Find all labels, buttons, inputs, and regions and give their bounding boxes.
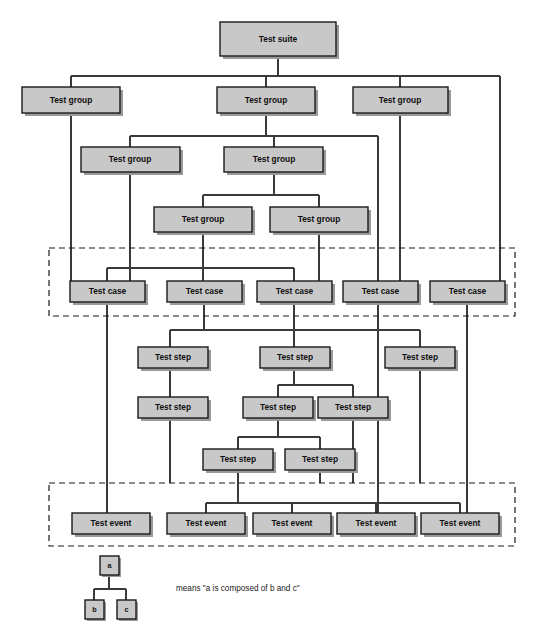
- legend-node-a: a: [100, 556, 121, 577]
- node-test-case-1[interactable]: Test case: [70, 281, 148, 305]
- edge-group5-to-subgroups: [203, 172, 319, 207]
- node-test-step-2[interactable]: Test step: [260, 347, 333, 371]
- node-body: [285, 449, 355, 470]
- legend-node-b: b: [85, 600, 106, 621]
- node-test-step-7[interactable]: Test step: [203, 449, 276, 473]
- node-body: [167, 513, 245, 534]
- node-body: [217, 87, 315, 113]
- node-body: [343, 281, 418, 302]
- node-body: [421, 513, 499, 534]
- node-body: [243, 397, 313, 418]
- node-test-case-4[interactable]: Test case: [343, 281, 421, 305]
- node-body: [138, 397, 208, 418]
- diagram-root: Test suite Test group Test group Test gr…: [0, 0, 536, 635]
- node-test-step-6[interactable]: Test step: [318, 397, 391, 421]
- node-test-group-7[interactable]: Test group: [270, 207, 371, 235]
- node-body: [318, 397, 388, 418]
- node-body: [100, 556, 119, 575]
- node-test-event-4[interactable]: Test event: [337, 513, 418, 537]
- node-body: [353, 87, 448, 113]
- node-body: [430, 281, 505, 302]
- node-body: [224, 147, 323, 172]
- node-test-case-2[interactable]: Test case: [167, 281, 245, 305]
- node-test-case-3[interactable]: Test case: [257, 281, 335, 305]
- node-body: [270, 207, 368, 232]
- node-test-event-1[interactable]: Test event: [72, 513, 153, 537]
- node-test-step-8[interactable]: Test step: [285, 449, 358, 473]
- node-body: [81, 147, 180, 172]
- edge-step5-to-substeps: [238, 418, 320, 449]
- node-test-step-4[interactable]: Test step: [138, 397, 211, 421]
- node-test-case-5[interactable]: Test case: [430, 281, 508, 305]
- edge-legend-a-to-bc: [94, 575, 126, 600]
- node-body: [220, 22, 336, 56]
- node-body: [154, 207, 252, 232]
- node-test-group-5[interactable]: Test group: [224, 147, 326, 175]
- node-body: [203, 449, 273, 470]
- node-test-group-4[interactable]: Test group: [81, 147, 183, 175]
- legend-node-c: c: [117, 600, 138, 621]
- edge-step-bus: [170, 330, 420, 347]
- node-body: [167, 281, 242, 302]
- node-test-event-5[interactable]: Test event: [421, 513, 502, 537]
- node-test-group-3[interactable]: Test group: [353, 87, 451, 116]
- node-test-step-3[interactable]: Test step: [385, 347, 458, 371]
- node-test-event-3[interactable]: Test event: [253, 513, 334, 537]
- edge-group2-to-subgroups: [130, 113, 378, 281]
- node-body: [138, 347, 208, 368]
- node-body: [337, 513, 415, 534]
- edge-case-fan: [107, 268, 294, 281]
- node-body: [257, 281, 332, 302]
- edge-step2-to-substeps: [278, 368, 353, 397]
- node-test-suite[interactable]: Test suite: [220, 22, 339, 59]
- legend-note: means "a is composed of b and c": [176, 584, 300, 593]
- node-body: [260, 347, 330, 368]
- node-test-group-2[interactable]: Test group: [217, 87, 318, 116]
- node-test-group-6[interactable]: Test group: [154, 207, 255, 235]
- node-test-step-1[interactable]: Test step: [138, 347, 211, 371]
- node-body: [72, 513, 150, 534]
- node-test-group-1[interactable]: Test group: [22, 87, 123, 116]
- node-body: [22, 87, 120, 113]
- node-body: [70, 281, 145, 302]
- node-body: [253, 513, 331, 534]
- node-test-step-5[interactable]: Test step: [243, 397, 316, 421]
- edge-event-fan: [206, 503, 460, 513]
- node-body: [117, 600, 136, 619]
- test-suite-composition-diagram: Test suite Test group Test group Test gr…: [0, 0, 536, 635]
- node-body: [385, 347, 455, 368]
- node-body: [85, 600, 104, 619]
- node-test-event-2[interactable]: Test event: [167, 513, 248, 537]
- node-layer: Test suite Test group Test group Test gr…: [22, 22, 508, 537]
